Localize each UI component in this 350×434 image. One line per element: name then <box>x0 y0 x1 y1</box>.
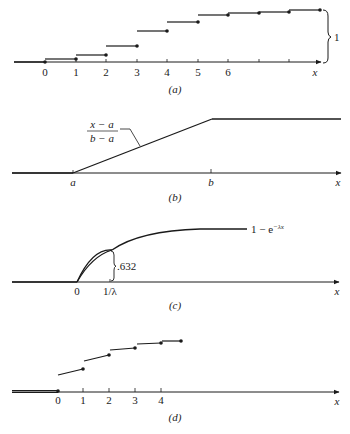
segments <box>58 341 181 375</box>
x-axis-label: x <box>334 395 340 407</box>
tick-label: 6 <box>225 66 231 78</box>
ticks <box>83 388 161 392</box>
tick-label: 0 <box>74 285 80 297</box>
tick-label: b <box>208 176 214 188</box>
tick-label: 1 <box>73 66 79 78</box>
panel-caption: (a) <box>169 83 182 96</box>
x-axis-label: x <box>335 176 341 188</box>
leader-line <box>120 129 140 146</box>
bracket-label: .632 <box>117 260 136 272</box>
panel-c: .632 1 − e−λx 0 1/λ x (c) <box>12 223 340 312</box>
x-axis-label: x <box>312 66 318 78</box>
ramp-label-numerator: x − a <box>89 118 114 130</box>
tick-label: 0 <box>55 394 61 406</box>
x-axis-label: x <box>334 285 340 297</box>
tick-label: 2 <box>106 394 112 406</box>
segment-dots <box>56 339 183 393</box>
tick-label: 4 <box>164 66 170 78</box>
step-segments <box>14 10 320 62</box>
panel-caption: (b) <box>169 191 182 204</box>
panel-a: 1 0 1 2 3 4 5 6 x (a) <box>14 8 340 96</box>
tick-label: 4 <box>158 394 164 406</box>
panel-b: x − a b − a a b x (b) <box>12 118 341 204</box>
tick-label: 2 <box>103 66 109 78</box>
panel-d: 0 1 2 3 4 x (d) <box>12 339 340 424</box>
tick-label: a <box>70 176 76 188</box>
brace-label: 1 <box>334 31 340 43</box>
tick-label: 1/λ <box>103 285 118 297</box>
panel-caption: (c) <box>169 299 182 312</box>
tick-label: 1 <box>80 394 86 406</box>
brace <box>323 10 331 63</box>
tick-label: 3 <box>134 66 140 78</box>
figure-canvas: 1 0 1 2 3 4 5 6 x (a) x − a b − a a b x … <box>0 0 350 434</box>
tick-label: 5 <box>195 66 201 78</box>
panel-caption: (d) <box>169 411 182 424</box>
bracket <box>111 251 116 281</box>
curve-label: 1 − e−λx <box>251 223 285 235</box>
tick-label: 3 <box>132 394 138 406</box>
tick-label: 0 <box>42 66 48 78</box>
exponential-curve <box>77 229 247 282</box>
ramp-label-denominator: b − a <box>90 132 114 144</box>
